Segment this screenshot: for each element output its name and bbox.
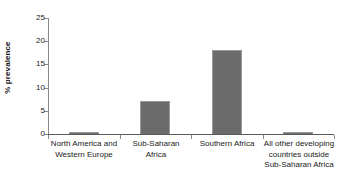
- y-axis-title-text: % prevalence: [3, 41, 12, 93]
- x-axis-label-line: countries outside: [263, 150, 335, 161]
- bar: [283, 132, 313, 134]
- x-axis-label-line: Africa: [120, 150, 192, 161]
- y-axis-tick-label: 20: [36, 36, 45, 45]
- y-axis-tick-label: 15: [36, 59, 45, 68]
- x-axis-label-line: North America and: [48, 139, 120, 150]
- bar: [140, 101, 170, 134]
- y-axis-tick-label: 25: [36, 13, 45, 22]
- x-axis-label: Sub-SaharanAfrica: [120, 139, 192, 160]
- y-axis-line: [48, 18, 49, 134]
- bar: [69, 132, 99, 134]
- bar: [212, 50, 242, 134]
- plot-area: 0510152025: [48, 18, 334, 134]
- x-axis-label-line: Sub-Saharan: [120, 139, 192, 150]
- x-axis-label-line: All other developing: [263, 139, 335, 150]
- x-axis-label-line: Southern Africa: [191, 139, 263, 150]
- x-axis-label: Southern Africa: [191, 139, 263, 150]
- x-axis-label-line: Sub-Saharan Africa: [263, 160, 335, 171]
- x-axis-label: All other developingcountries outsideSub…: [263, 139, 335, 171]
- x-axis-labels: North America andWestern EuropeSub-Sahar…: [48, 139, 334, 185]
- y-axis-tick-label: 10: [36, 83, 45, 92]
- x-axis-label: North America andWestern Europe: [48, 139, 120, 160]
- bar-chart: % prevalence 0510152025 North America an…: [0, 0, 341, 185]
- y-axis-title: % prevalence: [0, 0, 14, 134]
- y-axis-tick-label: 0: [41, 129, 45, 138]
- x-axis-label-line: Western Europe: [48, 150, 120, 161]
- y-axis-tick-label: 5: [41, 106, 45, 115]
